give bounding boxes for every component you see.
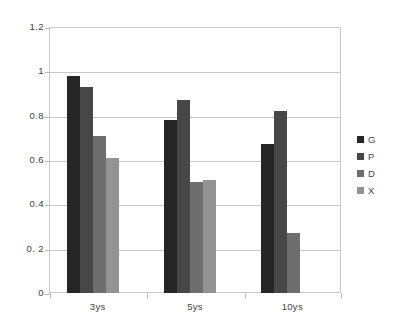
bars-layer — [49, 27, 341, 293]
bar-d-10ys — [287, 233, 300, 293]
legend-item-g[interactable]: G — [357, 131, 395, 148]
legend-swatch-g — [357, 136, 364, 143]
legend-label: D — [368, 169, 375, 179]
legend-swatch-p — [357, 153, 364, 160]
x-axis-tick-label: 5ys — [165, 301, 225, 312]
bar-group — [164, 27, 216, 293]
bar-g-10ys — [261, 144, 274, 293]
bar-group — [67, 27, 119, 293]
y-axis-tick-label: 0.4 — [30, 199, 44, 209]
bar-d-3ys — [93, 136, 106, 293]
legend-swatch-x — [357, 187, 364, 194]
bar-x-5ys — [203, 180, 216, 293]
chart-legend: GPDX — [357, 131, 395, 199]
bar-x-3ys — [106, 158, 119, 293]
y-axis-tick-label: 1 — [38, 66, 44, 76]
y-axis-tick-label: 0.6 — [30, 155, 44, 165]
bar-g-5ys — [164, 120, 177, 293]
legend-label: X — [368, 186, 375, 196]
legend-label: G — [368, 135, 376, 145]
bar-p-3ys — [80, 87, 93, 293]
y-axis-tick-label: 0. 2 — [27, 244, 44, 254]
x-axis-tickmark — [341, 293, 342, 299]
x-axis-tickmark — [147, 293, 148, 299]
x-axis-tick-label: 3ys — [68, 301, 128, 312]
legend-item-d[interactable]: D — [357, 165, 395, 182]
x-axis-tick-label: 10ys — [262, 301, 322, 312]
legend-item-p[interactable]: P — [357, 148, 395, 165]
x-axis-tickmark — [245, 293, 246, 299]
y-axis-tick-label: 1.2 — [30, 22, 44, 32]
x-axis-tickmark — [50, 293, 51, 299]
bar-p-10ys — [274, 111, 287, 293]
y-axis-tickmark — [45, 294, 50, 295]
bar-chart: 1.210.80.60.40. 20 3ys5ys10ys GPDX — [0, 0, 396, 334]
y-axis-tick-label: 0 — [38, 288, 44, 298]
legend-swatch-d — [357, 170, 364, 177]
legend-item-x[interactable]: X — [357, 182, 395, 199]
legend-label: P — [368, 152, 375, 162]
bar-d-5ys — [190, 182, 203, 293]
bar-group — [261, 27, 313, 293]
bar-p-5ys — [177, 100, 190, 293]
y-axis-tick-label: 0.8 — [30, 111, 44, 121]
bar-g-3ys — [67, 76, 80, 293]
